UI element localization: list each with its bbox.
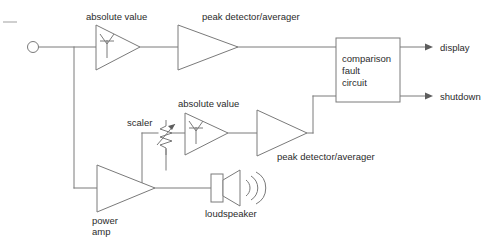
loudspeaker-sound-waves-icon bbox=[246, 172, 266, 204]
scaler-label: scaler bbox=[127, 117, 152, 128]
power-amp-triangle[interactable] bbox=[97, 165, 155, 212]
comparison-fault-circuit-block[interactable]: comparison fault circuit bbox=[336, 38, 400, 102]
page-artifact bbox=[3, 21, 17, 23]
comparison-label-line1: comparison bbox=[342, 53, 391, 64]
loudspeaker-horn-icon bbox=[223, 170, 240, 206]
input-terminal-icon[interactable] bbox=[28, 42, 39, 53]
scaler-potentiometer-block[interactable] bbox=[157, 120, 175, 155]
abs-value-top-label: absolute value bbox=[86, 11, 147, 22]
abs-value-top-triangle bbox=[96, 25, 140, 70]
peak-detector-top-label: peak detector/averager bbox=[202, 11, 300, 22]
block-diagram-canvas: absolute value peak detector/averager co… bbox=[0, 0, 501, 243]
peak-detector-top-triangle[interactable] bbox=[178, 25, 238, 70]
peak-detector-bottom-triangle[interactable] bbox=[257, 110, 307, 156]
loudspeaker-body-icon bbox=[211, 174, 223, 202]
output-label-shutdown: shutdown bbox=[440, 91, 481, 102]
power-amp-label-line2: amp bbox=[92, 226, 110, 237]
abs-value-top-block[interactable] bbox=[96, 25, 140, 70]
arrow-display-icon bbox=[425, 44, 433, 51]
arrow-shutdown-icon bbox=[425, 93, 433, 100]
abs-value-bottom-block[interactable] bbox=[185, 113, 228, 155]
potentiometer-wiper-arrow-icon bbox=[168, 124, 175, 130]
abs-value-bottom-label: absolute value bbox=[178, 98, 239, 109]
comparison-label-line2: fault bbox=[342, 65, 360, 76]
output-label-display: display bbox=[440, 42, 470, 53]
potentiometer-zigzag-icon bbox=[160, 120, 172, 155]
comparison-label-line3: circuit bbox=[342, 77, 367, 88]
peak-detector-bottom-label: peak detector/averager bbox=[277, 151, 375, 162]
loudspeaker-label: loudspeaker bbox=[205, 208, 257, 219]
block-diagram-svg: absolute value peak detector/averager co… bbox=[0, 0, 501, 243]
loudspeaker-block[interactable] bbox=[211, 170, 266, 206]
power-amp-label-line1: power bbox=[92, 215, 118, 226]
abs-value-bottom-triangle bbox=[185, 113, 228, 155]
